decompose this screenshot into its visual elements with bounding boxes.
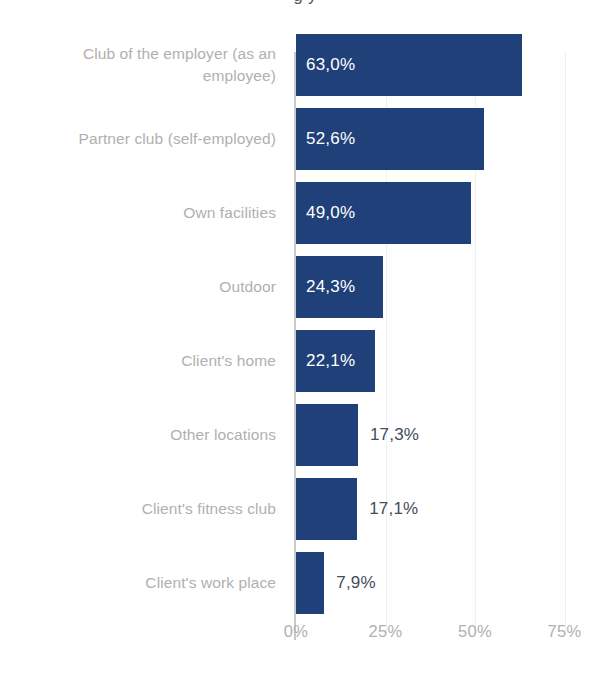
category-label: Partner club (self-employed) (12, 102, 282, 176)
category-label: Outdoor (12, 250, 282, 324)
bar-chart: g y Club of the employer (as an employee… (0, 0, 610, 698)
bar[interactable] (296, 552, 324, 614)
bar-row: Partner club (self-employed)52,6% (0, 102, 610, 176)
bar-value-label: 17,1% (369, 478, 418, 540)
x-tick-label: 75% (548, 622, 582, 641)
bar-row: Own facilities49,0% (0, 176, 610, 250)
bar-value-label: 24,3% (306, 256, 355, 318)
bar-value-label: 52,6% (306, 108, 355, 170)
x-tick-label: 25% (369, 622, 403, 641)
category-label: Client's work place (12, 546, 282, 620)
bar-row: Client's work place7,9% (0, 546, 610, 620)
category-label: Own facilities (12, 176, 282, 250)
plot-area: Club of the employer (as an employee)63,… (0, 24, 610, 616)
bar-value-label: 63,0% (306, 34, 355, 96)
category-label: Client's home (12, 324, 282, 398)
bar-value-label: 49,0% (306, 182, 355, 244)
bar[interactable] (296, 478, 357, 540)
category-label: Other locations (12, 398, 282, 472)
bar-value-label: 22,1% (306, 330, 355, 392)
category-label: Club of the employer (as an employee) (12, 28, 282, 102)
x-tick-label: 0% (284, 622, 308, 641)
x-tick-label: 50% (458, 622, 492, 641)
bar-row: Client's fitness club17,1% (0, 472, 610, 546)
bar-row: Client's home22,1% (0, 324, 610, 398)
x-axis-tick-labels: 0%25%50%75% (0, 622, 610, 652)
bar[interactable] (296, 404, 358, 466)
bar-row: Outdoor24,3% (0, 250, 610, 324)
bar-value-label: 7,9% (336, 552, 376, 614)
bar-row: Club of the employer (as an employee)63,… (0, 28, 610, 102)
bar-row: Other locations17,3% (0, 398, 610, 472)
chart-title-cropped: g y (0, 0, 610, 8)
category-label: Client's fitness club (12, 472, 282, 546)
bar-value-label: 17,3% (370, 404, 419, 466)
